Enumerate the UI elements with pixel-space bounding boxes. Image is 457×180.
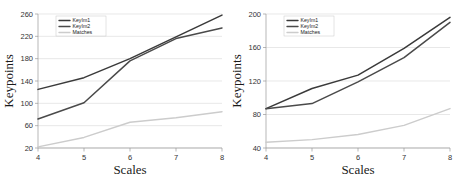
x-tick-label: 8: [220, 153, 224, 162]
y-tick-label: 200: [248, 10, 261, 19]
y-tick-label: 180: [20, 54, 33, 63]
y-tick-label: 260: [20, 10, 33, 19]
chart-panel-right: 408012016020045678ScalesKeypointsKeyIm1K…: [228, 0, 456, 180]
series-line-matches: [266, 109, 450, 143]
y-axis-title: Keypoints: [1, 54, 16, 107]
x-tick-label: 7: [174, 153, 178, 162]
x-tick-label: 8: [448, 153, 452, 162]
x-tick-label: 7: [402, 153, 406, 162]
x-tick-label: 4: [36, 153, 40, 162]
y-tick-label: 100: [20, 99, 33, 108]
x-tick-label: 5: [310, 153, 314, 162]
x-tick-label: 5: [82, 153, 86, 162]
y-tick-label: 160: [248, 43, 261, 52]
plot-area-right: 408012016020045678ScalesKeypointsKeyIm1K…: [229, 10, 452, 177]
y-axis-title: Keypoints: [229, 54, 244, 107]
series-line-keyim2: [38, 28, 222, 119]
line-chart-left: 206010014018022026045678ScalesKeypointsK…: [0, 0, 228, 180]
legend-label-matches: Matches: [73, 29, 93, 35]
x-tick-label: 4: [264, 153, 268, 162]
y-tick-label: 20: [25, 144, 33, 153]
legend-label-matches: Matches: [301, 29, 321, 35]
y-tick-label: 80: [253, 110, 261, 119]
line-chart-right: 408012016020045678ScalesKeypointsKeyIm1K…: [228, 0, 456, 180]
x-tick-label: 6: [356, 153, 360, 162]
y-tick-label: 120: [248, 77, 261, 86]
y-tick-label: 40: [253, 144, 261, 153]
x-axis-title: Scales: [341, 162, 374, 177]
y-tick-label: 140: [20, 77, 33, 86]
y-tick-label: 60: [25, 121, 33, 130]
y-tick-label: 220: [20, 32, 33, 41]
series-line-matches: [38, 112, 222, 147]
plot-area-left: 206010014018022026045678ScalesKeypointsK…: [1, 10, 224, 177]
x-tick-label: 6: [128, 153, 132, 162]
x-axis-title: Scales: [113, 162, 146, 177]
chart-panel-left: 206010014018022026045678ScalesKeypointsK…: [0, 0, 228, 180]
figure-container: 206010014018022026045678ScalesKeypointsK…: [0, 0, 457, 180]
